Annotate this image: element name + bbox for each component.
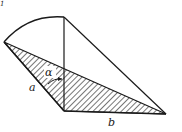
- arc: [4, 17, 64, 42]
- angle-label: α: [45, 66, 53, 79]
- side-b-label: b: [108, 116, 115, 129]
- side-a-label: a: [29, 81, 36, 94]
- corner-mark: 1: [0, 0, 4, 8]
- hatched-triangle: [4, 42, 166, 114]
- geometry-diagram: α a b 1: [0, 0, 182, 132]
